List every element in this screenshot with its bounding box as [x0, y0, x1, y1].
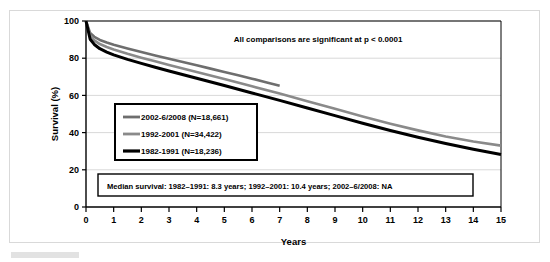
x-tick-label: 0	[83, 215, 88, 225]
annotation-label: All comparisons are significant at p < 0…	[234, 35, 403, 44]
y-tick-label: 20	[69, 165, 79, 175]
x-tick-label: 10	[358, 215, 368, 225]
y-tick-label: 40	[69, 128, 79, 138]
x-tick-label: 9	[332, 215, 337, 225]
y-axis-title: Survival (%)	[49, 87, 60, 141]
x-tick-label: 6	[249, 215, 254, 225]
x-tick-label: 14	[468, 215, 478, 225]
x-tick-label: 3	[166, 215, 171, 225]
x-tick-label: 1	[111, 215, 116, 225]
x-axis-title: Years	[281, 236, 306, 247]
x-tick-label: 11	[386, 215, 396, 225]
x-tick-label: 12	[413, 215, 423, 225]
x-tick-label: 13	[441, 215, 451, 225]
significance-annotation: All comparisons are significant at p < 0…	[234, 35, 403, 44]
y-tick-label: 80	[69, 53, 79, 63]
legend-label-1: 2002-6/2008 (N=18,661)	[141, 113, 229, 122]
survival-chart: 0204060801000123456789101112131415 Years…	[0, 0, 550, 262]
y-tick-label: 0	[74, 202, 79, 212]
x-tick-label: 8	[305, 215, 310, 225]
legend-label-3: 1982-1991 (N=18,236)	[141, 147, 222, 156]
x-tick-label: 5	[222, 215, 227, 225]
median-label: Median survival: 1982–1991: 8.3 years; 1…	[107, 182, 393, 191]
x-tick-label: 2	[139, 215, 144, 225]
x-tick-label: 4	[194, 215, 199, 225]
legend-label-2: 1992-2001 (N=34,422)	[141, 130, 222, 139]
figure-root: 0204060801000123456789101112131415 Years…	[0, 0, 550, 262]
x-tick-label: 7	[277, 215, 282, 225]
x-tick-label: 15	[496, 215, 506, 225]
y-tick-label: 100	[64, 16, 79, 26]
y-tick-label: 60	[69, 91, 79, 101]
median-survival-box: Median survival: 1982–1991: 8.3 years; 1…	[98, 174, 473, 196]
legend-box: 2002-6/2008 (N=18,661)1992-2001 (N=34,42…	[115, 104, 257, 160]
